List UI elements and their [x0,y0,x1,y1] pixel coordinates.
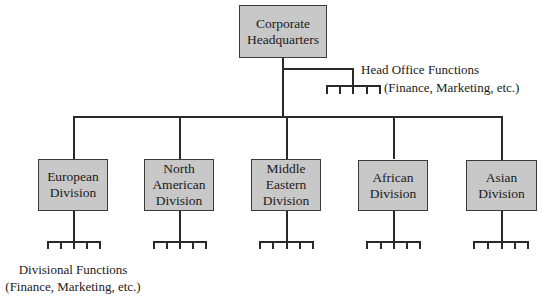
division-label-line: Asian [478,170,525,186]
division-label-line: North [152,161,205,177]
european-division-box: European Division [38,159,108,211]
division-drop [179,116,181,159]
division-label-line: Division [152,193,205,209]
divisional-functions-title: Divisional Functions [0,262,146,277]
division-drop [393,116,395,159]
divisional-tick [60,241,62,249]
division-stem [179,211,181,242]
divisional-tick [272,241,274,249]
division-drop [501,116,503,160]
north-american-division-box: North American Division [144,159,214,211]
divisional-tick [380,241,382,249]
head-office-functions-bar [326,85,381,87]
corporate-headquarters-box: Corporate Headquarters [239,5,327,58]
division-stem [393,211,395,242]
division-label-line: African [370,170,417,186]
divisional-tick [527,241,529,249]
divisional-tick [259,241,261,249]
divisional-tick [286,241,288,249]
division-label-line: European [47,169,99,185]
head-office-tick [379,85,381,94]
division-label-line: Division [47,185,99,201]
division-label-line: Division [478,186,525,202]
asian-division-box: Asian Division [466,160,537,211]
divisional-tick [86,241,88,249]
divisional-tick [299,241,301,249]
african-division-box: African Division [358,160,428,211]
division-distribution-bar [73,116,502,118]
divisional-tick [514,241,516,249]
divisional-tick [366,241,368,249]
divisional-tick [205,241,207,249]
divisional-tick [501,241,503,249]
division-drop [73,116,75,159]
divisional-tick [153,241,155,249]
head-office-tick [366,85,368,94]
division-stem [73,211,75,242]
division-label-line: Division [263,193,310,209]
divisional-tick [419,241,421,249]
head-office-functions-subtitle: (Finance, Marketing, etc.) [384,80,519,95]
division-label-line: Division [370,186,417,202]
head-office-tick [339,85,341,94]
divisional-tick [487,241,489,249]
head-office-tick [326,85,328,94]
head-office-tick [352,85,354,94]
division-stem [286,211,288,242]
division-stem [501,211,503,242]
root-label-line-2: Headquarters [247,32,319,48]
head-office-stem [352,68,354,86]
divisional-tick [312,241,314,249]
head-office-functions-title: Head Office Functions [361,62,479,77]
divisional-tick [166,241,168,249]
divisional-tick [73,241,75,249]
division-label-line: Middle [263,161,310,177]
trunk-connector [282,58,284,117]
divisional-tick [393,241,395,249]
head-office-branch [282,68,353,70]
division-label-line: Eastern [263,177,310,193]
divisional-tick [192,241,194,249]
divisional-tick [99,241,101,249]
divisional-functions-subtitle: (Finance, Marketing, etc.) [0,279,146,294]
division-label-line: American [152,177,205,193]
division-drop [286,116,288,159]
divisional-tick [47,241,49,249]
divisional-tick [406,241,408,249]
divisional-tick [473,241,475,249]
middle-eastern-division-box: Middle Eastern Division [251,159,321,211]
root-label-line-1: Corporate [247,16,319,32]
divisional-tick [179,241,181,249]
